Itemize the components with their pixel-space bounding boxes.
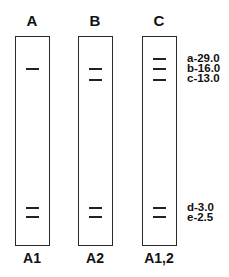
- band: [89, 79, 102, 81]
- marker-label-c: c-13.0: [187, 73, 220, 83]
- lane-b: [78, 36, 113, 246]
- band: [26, 68, 39, 70]
- lane-a: [15, 36, 50, 246]
- lane-a-bottom-label: A1: [7, 250, 57, 266]
- band: [153, 58, 166, 60]
- lane-a-top-label: A: [12, 12, 52, 29]
- band: [153, 79, 166, 81]
- lane-c: [142, 36, 177, 246]
- lane-c-top-label: C: [139, 12, 179, 29]
- band: [89, 216, 102, 218]
- band: [89, 68, 102, 70]
- lane-b-top-label: B: [75, 12, 115, 29]
- lane-b-bottom-label: A2: [70, 250, 120, 266]
- band: [89, 207, 102, 209]
- band: [26, 207, 39, 209]
- band: [26, 216, 39, 218]
- band: [153, 216, 166, 218]
- marker-label-e: e-2.5: [187, 212, 213, 222]
- band: [153, 207, 166, 209]
- lane-c-bottom-label: A1,2: [134, 250, 184, 266]
- band: [153, 68, 166, 70]
